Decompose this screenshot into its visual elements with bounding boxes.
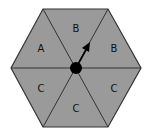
section-label-lower-right: C	[111, 83, 118, 94]
section-label-top: B	[73, 23, 80, 34]
section-label-upper-right: B	[111, 43, 118, 54]
spinner-center-dot	[70, 62, 82, 74]
section-label-bottom: C	[73, 103, 80, 114]
section-label-lower-left: C	[38, 83, 45, 94]
spinner-diagram: B B C C C A	[0, 0, 149, 132]
section-label-upper-left: A	[38, 43, 45, 54]
